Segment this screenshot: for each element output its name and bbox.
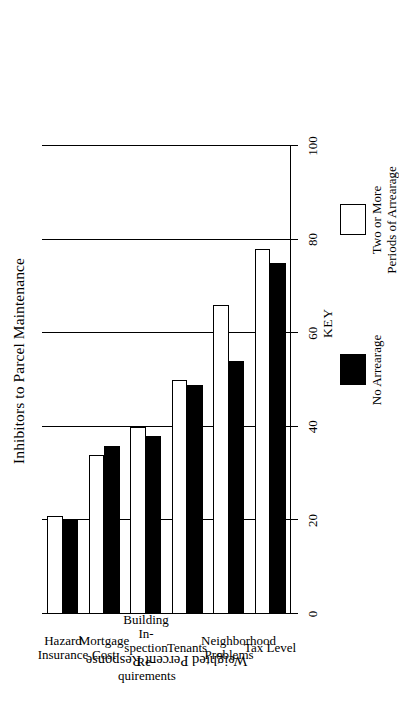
legend: KEY No Arrearage Two or More Periods of … (318, 156, 382, 486)
tick-60 (291, 332, 298, 333)
tick-label-100: 100 (305, 136, 321, 156)
tick-80 (291, 239, 298, 240)
legend-label-two-or-more: Two or More Periods of Arrearage (370, 150, 399, 290)
category-label: Hazard Insurance (35, 634, 91, 662)
bar-no-arrearage (187, 385, 203, 614)
tick-label-0: 0 (305, 611, 321, 618)
gridline-100 (42, 145, 291, 146)
category-axis-line (290, 146, 291, 614)
legend-swatch-two-or-more (340, 205, 366, 236)
bar-two-or-more (172, 380, 188, 614)
bar-group (172, 146, 203, 614)
tick-0 (291, 613, 298, 614)
bar-two-or-more (213, 305, 229, 614)
legend-entry-no-arrearage: No Arrearage (340, 310, 385, 430)
chart-title: Inhibitors to Parcel Maintenance (10, 0, 28, 722)
bar-two-or-more (255, 249, 271, 614)
legend-entry-two-or-more: Two or More Periods of Arrearage (340, 150, 399, 290)
tick-label-20: 20 (305, 514, 321, 527)
gridline-60 (42, 332, 291, 333)
bar-group (47, 146, 78, 614)
bar-no-arrearage (63, 520, 79, 614)
bar-two-or-more (130, 427, 146, 614)
bar-two-or-more (47, 516, 63, 614)
bar-no-arrearage (104, 446, 120, 614)
tick-40 (291, 426, 298, 427)
bar-group (255, 146, 286, 614)
gridline-20 (42, 519, 291, 520)
bar-two-or-more (89, 455, 105, 614)
bar-no-arrearage (146, 436, 162, 614)
gridline-80 (42, 239, 291, 240)
legend-title: KEY (320, 308, 336, 338)
tick-20 (291, 519, 298, 520)
bar-group (89, 146, 120, 614)
bar-group (130, 146, 161, 614)
bar-no-arrearage (229, 361, 245, 614)
tick-100 (291, 145, 298, 146)
bar-group (213, 146, 244, 614)
legend-swatch-no-arrearage (340, 355, 366, 386)
plot-area: 020406080100 Tax LevelNeighborhood Probl… (42, 146, 291, 614)
bar-no-arrearage (270, 263, 286, 614)
gridline-40 (42, 426, 291, 427)
legend-label-no-arrearage: No Arrearage (370, 310, 385, 430)
